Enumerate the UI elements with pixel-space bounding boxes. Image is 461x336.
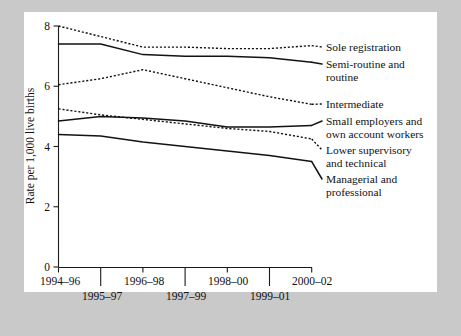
legend-label-4: Lower supervisory (326, 144, 412, 156)
x-tick-label-1994-96: 1994–96 (40, 275, 81, 287)
figure-container: 8 6 4 2 0 Rate per 1,000 live births 199… (0, 0, 461, 336)
legend-label-1-line2: routine (326, 71, 358, 83)
legend-group: Sole registrationSemi-routine androutine… (326, 41, 424, 198)
series-line-small-employers-and-own-account-workers (59, 116, 312, 127)
y-tick-label-4: 4 (44, 141, 50, 153)
line-chart: 8 6 4 2 0 Rate per 1,000 live births 199… (0, 0, 461, 336)
x-tick-label-1999-01: 1999–01 (250, 290, 291, 302)
y-axis-title: Rate per 1,000 live births (24, 87, 37, 204)
x-tick-label-1996-98: 1996–98 (124, 275, 165, 287)
y-tick-label-2: 2 (44, 201, 50, 213)
legend-label-3: Small employers and (326, 115, 422, 127)
x-tick-label-1998-00: 1998–00 (208, 275, 249, 287)
series-line-managerial-and-professional (59, 134, 312, 161)
legend-label-5-line2: professional (326, 186, 382, 198)
x-tick-label-2000-02: 2000–02 (292, 275, 333, 287)
legend-leader-4 (312, 139, 322, 150)
legend-leader-5 (312, 162, 322, 179)
series-line-intermediate (59, 70, 312, 105)
legend-leader-1 (312, 62, 322, 64)
legend-label-5: Managerial and (326, 173, 397, 185)
legend-label-3-line2: own account workers (326, 128, 424, 140)
series-line-sole-registration (59, 26, 312, 49)
legend-label-4-line2: and technical (326, 157, 386, 169)
legend-leader-0 (312, 46, 322, 47)
y-tick-label-8: 8 (44, 20, 50, 32)
x-tick-label-1995-97: 1995–97 (82, 290, 123, 302)
x-tick-marks (59, 268, 312, 287)
y-tick-marks (54, 26, 59, 267)
series-lines-group (59, 26, 323, 179)
y-tick-label-6: 6 (44, 80, 50, 92)
legend-label-2: Intermediate (326, 98, 384, 110)
legend-label-1: Semi-routine and (326, 58, 405, 70)
x-tick-label-1997-99: 1997–99 (166, 290, 207, 302)
series-line-lower-supervisory-and-technical (59, 109, 312, 139)
legend-label-0: Sole registration (326, 41, 401, 53)
y-tick-label-0: 0 (44, 261, 50, 273)
legend-leader-3 (312, 121, 322, 125)
